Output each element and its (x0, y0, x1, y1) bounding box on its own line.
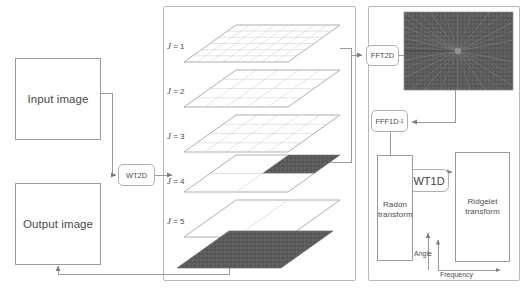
scale-label-j5: J = 5 (167, 216, 185, 226)
scale-label-j1: J = 1 (167, 41, 185, 51)
input-image-box[interactable]: Input image (15, 58, 101, 140)
scale-plane-1 (184, 25, 340, 62)
wt2d-button[interactable]: WT2D (118, 164, 155, 186)
fft2d-button[interactable]: FFT2D (366, 45, 399, 66)
fff1d-label: FFF1D (375, 117, 398, 126)
scale-plane-3 (184, 115, 340, 152)
scale-plane-4 (184, 155, 340, 192)
inverse-fft1d-button[interactable]: FFF1D-1 (371, 110, 408, 132)
connector-spectrum-to-fff1d (412, 90, 455, 122)
frequency-axis-label: Frequency (440, 271, 473, 278)
diagram-canvas: Input image Output image WT2D J = 1 J = … (0, 0, 528, 291)
connector-fft2d-to-spectrum (399, 51, 404, 55)
scale-label-j2: J = 2 (167, 86, 185, 96)
ridgelet-transform-label: Ridgelet transform (456, 197, 509, 217)
fff1d-superscript: -1 (399, 118, 404, 124)
scale-plane-2 (184, 70, 340, 107)
wt1d-label: WT1D (413, 175, 444, 187)
connector-input-to-wt2d (101, 93, 116, 175)
connector-scale1-to-fft2d (340, 48, 362, 55)
scale-label-j4: J = 4 (167, 176, 185, 186)
output-image-box[interactable]: Output image (15, 183, 101, 265)
fft2d-label: FFT2D (371, 51, 394, 60)
wt2d-label: WT2D (126, 171, 147, 180)
radon-transform-box[interactable]: Radon transform (377, 155, 413, 261)
angle-axis-label: Angle (414, 250, 432, 257)
output-image-label: Output image (23, 218, 93, 230)
input-image-label: Input image (27, 93, 88, 105)
scale-label-j3: J = 3 (167, 131, 185, 141)
wt1d-button[interactable]: WT1D (409, 169, 449, 192)
spectrum-streaks (404, 12, 513, 90)
ridgelet-transform-box[interactable]: Ridgelet transform (455, 152, 510, 262)
radon-transform-label: Radon transform (378, 200, 412, 220)
